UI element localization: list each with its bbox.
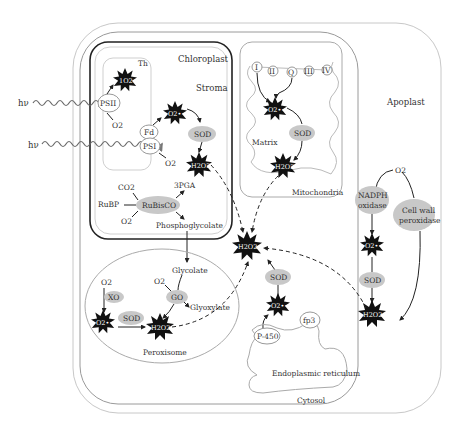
go-o2-label: O2 (154, 277, 165, 286)
phosphoglycolate-label: Phosphoglycolate (156, 221, 223, 230)
peroxisome-label: Peroxisome (143, 348, 187, 357)
matrix-label: Matrix (252, 138, 278, 147)
er-label: Endoplasmic reticulum (272, 369, 360, 378)
xo-o2-label: O2 (101, 278, 112, 287)
svg-text:Q: Q (288, 68, 294, 77)
apoplast-label: Apoplast (386, 97, 425, 107)
apoplast-sod-label: SOD (364, 276, 381, 285)
chloroplast-superoxide-label: O2•− (168, 110, 187, 118)
glyoxylate-label: Glyoxylate (190, 303, 230, 312)
psi-o2-label: O2 (165, 159, 176, 168)
svg-text:II: II (269, 67, 275, 76)
cytosol-sod-label: SOD (270, 273, 287, 282)
peroxisome-sod-label: SOD (123, 314, 140, 323)
cell-wall-peroxidase-label-2: peroxidase (399, 216, 441, 225)
psii-label: PSII (100, 99, 116, 108)
nadph-oxidase-label-2: oxidase (358, 201, 387, 210)
rubp-label: RuBP (98, 200, 119, 209)
cell-wall-peroxidase-label-1: Cell wall (402, 206, 436, 215)
chloroplast-h2o2-label: H2O2 (191, 162, 210, 170)
cytosol-label: Cytosol (297, 396, 326, 405)
svg-text:IV: IV (322, 66, 331, 75)
light-wave-1 (33, 101, 105, 106)
3pga-label: 3PGA (174, 181, 196, 190)
light-label-1: hν (18, 98, 29, 108)
cell-wall-peroxidase (393, 199, 435, 231)
stroma-label: Stroma (196, 83, 228, 93)
xo-label: XO (108, 293, 119, 302)
psi-label: PSI (143, 142, 156, 151)
go-label: GO (171, 293, 183, 302)
apoplast-h2o2-label: H2O2 (363, 311, 382, 319)
rubisco-o2-label: O2 (121, 217, 132, 226)
psii-o2-label: O2 (112, 121, 123, 130)
ros-diagram: Chloroplast Stroma Th hν hν PSII 1O2 O2 … (0, 0, 465, 442)
svg-text:I: I (255, 63, 258, 72)
nadph-oxidase-label-1: NADPH (358, 191, 388, 200)
mito-h2o2-label: H2O2 (275, 163, 294, 171)
peroxisome-superoxide-label: O2•− (96, 319, 115, 327)
svg-text:III: III (304, 67, 313, 76)
apoplast-superoxide-label: O2•− (365, 242, 384, 250)
mitochondria-inner-membrane (246, 62, 338, 174)
cytosol-superoxide-label: O2•− (271, 302, 290, 310)
mitochondria-label: Mitochondria (292, 188, 344, 197)
thylakoid-label: Th (138, 59, 148, 68)
co2-label: CO2 (118, 183, 135, 192)
mito-superoxide-label: O2•− (268, 106, 287, 114)
mito-sod-label: SOD (294, 129, 311, 138)
light-label-2: hν (28, 140, 39, 150)
fp3-label: fp3 (303, 316, 316, 325)
p450-label: P-450 (257, 332, 279, 341)
fd-label: Fd (144, 128, 154, 137)
glycolate-label: Glycolate (172, 266, 208, 275)
chloroplast-sod-label: SOD (194, 130, 211, 139)
peroxisome-h2o2-label: H2O2 (151, 324, 170, 332)
apoplast-o2-label: O2 (395, 166, 406, 175)
cytosol-h2o2-label: H2O2 (238, 243, 257, 251)
chloroplast-label: Chloroplast (178, 54, 229, 64)
rubisco-label: RuBisCO (142, 201, 176, 210)
singlet-oxygen-label: 1O2 (119, 77, 133, 85)
